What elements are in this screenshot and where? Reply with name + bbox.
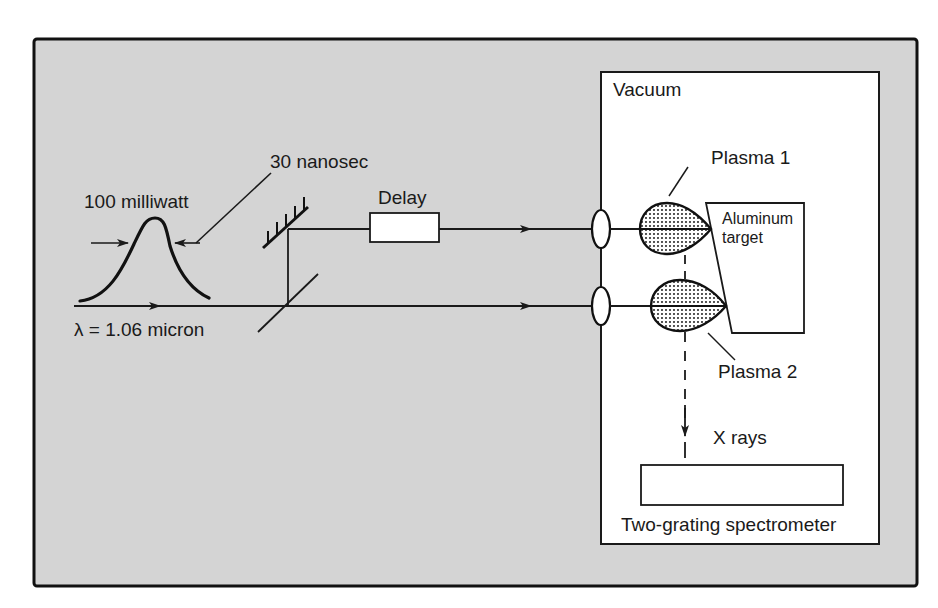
wavelength-label: λ = 1.06 micron bbox=[74, 319, 204, 340]
target-label-line1: Aluminum bbox=[722, 210, 793, 227]
spectrometer-label: Two-grating spectrometer bbox=[621, 514, 837, 535]
plasma2-label: Plasma 2 bbox=[718, 361, 797, 382]
xrays-label: X rays bbox=[713, 427, 767, 448]
spectrometer: Two-grating spectrometer bbox=[621, 465, 843, 535]
laser-plasma-xray-diagram: Vacuum 100 milliwatt 30 nanosec λ = 1.06… bbox=[0, 0, 938, 608]
pulse-width-label: 30 nanosec bbox=[270, 151, 368, 172]
plasma1-label: Plasma 1 bbox=[711, 147, 790, 168]
target-label-line2: target bbox=[722, 229, 763, 246]
lens-1 bbox=[592, 210, 610, 248]
pulse-power-label: 100 milliwatt bbox=[84, 191, 189, 212]
delay-label: Delay bbox=[378, 187, 427, 208]
vacuum-label: Vacuum bbox=[613, 79, 681, 100]
lens-2 bbox=[592, 287, 610, 325]
